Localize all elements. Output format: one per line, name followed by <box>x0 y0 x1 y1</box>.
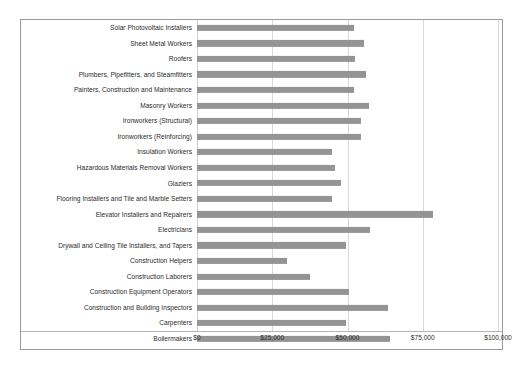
bar-track <box>197 113 502 129</box>
bar <box>197 56 355 62</box>
bar-track <box>197 175 502 191</box>
category-label: Elevator Installers and Repairers <box>21 211 197 218</box>
bar-row: Roofers <box>21 51 502 67</box>
bar-track <box>197 67 502 83</box>
bar-row: Ironworkers (Structural) <box>21 113 502 129</box>
bar-track <box>197 284 502 300</box>
bar-track <box>197 222 502 238</box>
category-label: Electricians <box>21 226 197 233</box>
category-label: Masonry Workers <box>21 102 197 109</box>
bar <box>197 305 388 311</box>
bar-track <box>197 315 502 331</box>
bar-row: Construction Laborers <box>21 269 502 285</box>
plot-area: Solar Photovoltaic InstallersSheet Metal… <box>21 20 502 349</box>
category-label: Construction Helpers <box>21 257 197 264</box>
bar-row: Insulation Workers <box>21 144 502 160</box>
bar-track <box>197 144 502 160</box>
x-tick-label: $100,000 <box>484 334 512 341</box>
bar-track <box>197 253 502 269</box>
chart-frame: Solar Photovoltaic InstallersSheet Metal… <box>20 19 503 350</box>
bar-row: Construction Helpers <box>21 253 502 269</box>
x-tick-label: $50,000 <box>336 334 360 341</box>
x-tick-label: $0 <box>193 334 200 341</box>
bar-track <box>197 269 502 285</box>
bar-track <box>197 238 502 254</box>
bar-row: Electricians <box>21 222 502 238</box>
category-label: Painters, Construction and Maintenance <box>21 86 197 93</box>
x-tick-label: $25,000 <box>260 334 284 341</box>
category-label: Construction Laborers <box>21 273 197 280</box>
category-label: Glaziers <box>21 180 197 187</box>
bar <box>197 40 364 46</box>
bar <box>197 242 346 248</box>
bar-row: Construction Equipment Operators <box>21 284 502 300</box>
bar <box>197 180 341 186</box>
bar-row: Masonry Workers <box>21 98 502 114</box>
category-label: Ironworkers (Reinforcing) <box>21 133 197 140</box>
bar-track <box>197 191 502 207</box>
bar <box>197 320 346 326</box>
bar-track <box>197 300 502 316</box>
bar <box>197 211 433 217</box>
bar-row: Carpenters <box>21 315 502 331</box>
bar-track <box>197 207 502 223</box>
category-label: Solar Photovoltaic Installers <box>21 24 197 31</box>
bar-row: Flooring Installers and Tile and Marble … <box>21 191 502 207</box>
category-label: Construction Equipment Operators <box>21 288 197 295</box>
bar <box>197 118 361 124</box>
bar-row: Drywall and Ceiling Tile Installers, and… <box>21 238 502 254</box>
bar <box>197 149 332 155</box>
bar-row: Glaziers <box>21 175 502 191</box>
bar-row: Solar Photovoltaic Installers <box>21 20 502 36</box>
bar-row: Sheet Metal Workers <box>21 36 502 52</box>
bar <box>197 71 366 77</box>
bar-track <box>197 98 502 114</box>
bar <box>197 289 349 295</box>
category-label: Carpenters <box>21 319 197 326</box>
category-label: Insulation Workers <box>21 148 197 155</box>
bar-row: Hazardous Materials Removal Workers <box>21 160 502 176</box>
category-label: Hazardous Materials Removal Workers <box>21 164 197 171</box>
bar-rows: Solar Photovoltaic InstallersSheet Metal… <box>21 20 502 346</box>
bar-row: Plumbers, Pipefitters, and Steamfitters <box>21 67 502 83</box>
x-tick-label: $75,000 <box>411 334 435 341</box>
category-label: Roofers <box>21 55 197 62</box>
bar-row: Painters, Construction and Maintenance <box>21 82 502 98</box>
bar-row: Construction and Building Inspectors <box>21 300 502 316</box>
bar-track <box>197 20 502 36</box>
bar <box>197 258 287 264</box>
category-label: Flooring Installers and Tile and Marble … <box>21 195 197 202</box>
category-label: Drywall and Ceiling Tile Installers, and… <box>21 242 197 249</box>
bar-track <box>197 129 502 145</box>
bar <box>197 134 361 140</box>
bar-row: Ironworkers (Reinforcing) <box>21 129 502 145</box>
x-axis-tick-labels: $0$25,000$50,000$75,000$100,000 <box>21 331 502 350</box>
category-label: Sheet Metal Workers <box>21 40 197 47</box>
bar-track <box>197 160 502 176</box>
bar-row: Elevator Installers and Repairers <box>21 207 502 223</box>
bar-track <box>197 36 502 52</box>
bar <box>197 87 354 93</box>
bar <box>197 165 335 171</box>
bar <box>197 102 369 108</box>
category-label: Plumbers, Pipefitters, and Steamfitters <box>21 71 197 78</box>
bar <box>197 196 332 202</box>
category-label: Construction and Building Inspectors <box>21 304 197 311</box>
bar <box>197 25 354 31</box>
category-label: Ironworkers (Structural) <box>21 117 197 124</box>
bar-track <box>197 51 502 67</box>
chart-page: Solar Photovoltaic InstallersSheet Metal… <box>0 0 520 371</box>
bar <box>197 227 370 233</box>
bar <box>197 273 310 279</box>
bar-track <box>197 82 502 98</box>
